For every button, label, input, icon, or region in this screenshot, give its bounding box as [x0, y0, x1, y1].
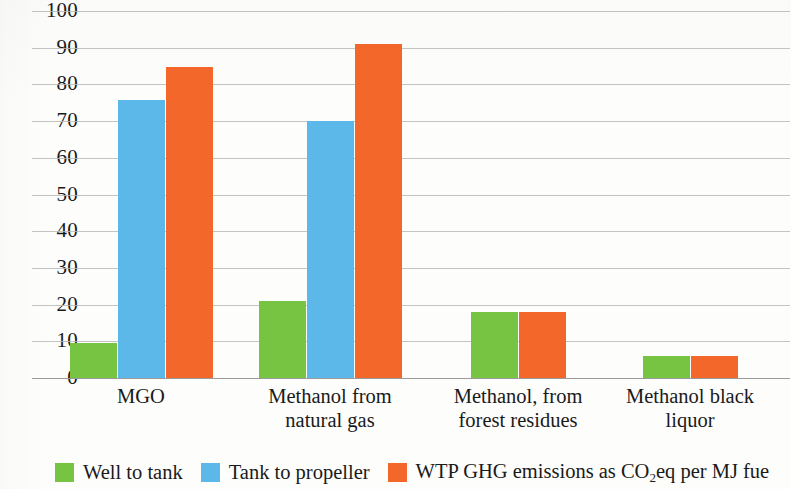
gridline: [32, 48, 790, 49]
bar: [471, 312, 518, 378]
bar: [166, 67, 213, 378]
chart-legend: Well to tankTank to propellerWTP GHG emi…: [0, 458, 791, 486]
gridline: [32, 378, 790, 379]
gridline: [32, 11, 790, 12]
x-axis-category-label: Methanol fromnatural gas: [230, 384, 430, 432]
bar: [259, 301, 306, 378]
legend-item[interactable]: Tank to propeller: [201, 461, 370, 483]
bar: [519, 312, 566, 378]
bar: [307, 121, 354, 378]
legend-label: Well to tank: [83, 461, 183, 483]
x-axis-category-label: Methanol blackliquor: [590, 384, 790, 432]
gridline: [32, 84, 790, 85]
bar: [70, 343, 117, 378]
bar: [691, 356, 738, 378]
bar: [118, 100, 165, 378]
legend-swatch: [201, 463, 220, 482]
legend-swatch: [55, 463, 74, 482]
legend-swatch: [388, 463, 407, 482]
plot-area: [32, 11, 790, 378]
bar: [643, 356, 690, 378]
x-axis-category-label: MGO: [41, 384, 241, 408]
bar-chart: 1009080706050403020100 MGOMethanol fromn…: [0, 0, 791, 489]
legend-label: Tank to propeller: [229, 461, 370, 483]
legend-item[interactable]: Well to tank: [55, 461, 183, 483]
legend-label: WTP GHG emissions as CO2eq per MJ fue: [416, 460, 770, 485]
x-axis: MGOMethanol fromnatural gasMethanol, fro…: [32, 384, 790, 446]
bar: [355, 44, 402, 378]
legend-item[interactable]: WTP GHG emissions as CO2eq per MJ fue: [388, 460, 770, 485]
x-axis-category-label: Methanol, fromforest residues: [418, 384, 618, 432]
